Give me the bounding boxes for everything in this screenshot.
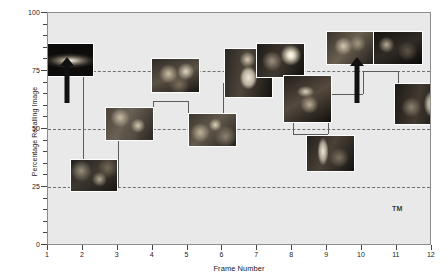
frame-2-thumbnail bbox=[70, 159, 118, 192]
frame-5-thumbnail bbox=[188, 113, 237, 147]
x-tick-5 bbox=[187, 245, 188, 250]
up-arrow-marker-right bbox=[350, 57, 364, 103]
up-arrow-marker-left bbox=[60, 57, 74, 103]
x-tick-4 bbox=[152, 245, 153, 250]
y-tick-minor-10 bbox=[43, 221, 47, 222]
x-tick-11 bbox=[396, 245, 397, 250]
y-tick-50 bbox=[41, 128, 47, 129]
x-tick-2 bbox=[82, 245, 83, 250]
x-tick-label-2: 2 bbox=[72, 251, 92, 258]
x-tick-label-1: 1 bbox=[37, 251, 57, 258]
y-tick-minor-5 bbox=[43, 232, 47, 233]
x-axis-title: Frame Number bbox=[47, 264, 431, 273]
y-tick-minor-45 bbox=[43, 140, 47, 141]
y-tick-label-0: 0 bbox=[0, 241, 40, 248]
x-tick-label-7: 7 bbox=[246, 251, 266, 258]
y-tick-minor-60 bbox=[43, 105, 47, 106]
y-tick-25 bbox=[41, 186, 47, 187]
x-tick-label-12: 12 bbox=[421, 251, 441, 258]
chart-figure: TM 100 75 50 25 0 Percentage Recalling I… bbox=[0, 0, 448, 280]
step-segment-10 bbox=[363, 71, 398, 72]
frame-3-thumbnail bbox=[105, 107, 154, 141]
frame-11-thumbnail bbox=[394, 83, 431, 125]
x-tick-1 bbox=[47, 245, 48, 250]
y-tick-75 bbox=[41, 70, 47, 71]
x-tick-label-11: 11 bbox=[386, 251, 406, 258]
arrow-shaft bbox=[65, 65, 70, 103]
plot-area: TM bbox=[47, 12, 431, 245]
x-tick-label-10: 10 bbox=[351, 251, 371, 258]
step-segment-4 bbox=[153, 101, 188, 102]
frame-7-thumbnail bbox=[256, 43, 305, 78]
x-tick-6 bbox=[221, 245, 222, 250]
y-tick-minor-15 bbox=[43, 209, 47, 210]
y-tick-100 bbox=[41, 12, 47, 13]
frame-8-thumbnail bbox=[283, 75, 332, 123]
y-tick-minor-30 bbox=[43, 174, 47, 175]
y-tick-minor-20 bbox=[43, 198, 47, 199]
y-tick-minor-70 bbox=[43, 82, 47, 83]
x-tick-3 bbox=[117, 245, 118, 250]
y-tick-minor-40 bbox=[43, 151, 47, 152]
arrow-shaft bbox=[355, 65, 360, 103]
x-tick-label-9: 9 bbox=[316, 251, 336, 258]
x-tick-8 bbox=[291, 245, 292, 250]
x-tick-12 bbox=[431, 245, 432, 250]
y-tick-minor-65 bbox=[43, 93, 47, 94]
frame-4-thumbnail bbox=[151, 58, 200, 93]
x-tick-7 bbox=[256, 245, 257, 250]
y-tick-minor-55 bbox=[43, 116, 47, 117]
x-tick-label-6: 6 bbox=[211, 251, 231, 258]
x-tick-10 bbox=[361, 245, 362, 250]
y-tick-minor-80 bbox=[43, 58, 47, 59]
x-tick-label-4: 4 bbox=[142, 251, 162, 258]
x-tick-label-3: 3 bbox=[107, 251, 127, 258]
frame-10-thumbnail bbox=[373, 31, 423, 65]
y-tick-minor-90 bbox=[43, 35, 47, 36]
y-tick-minor-95 bbox=[43, 24, 47, 25]
y-tick-label-100: 100 bbox=[0, 9, 40, 16]
y-tick-minor-35 bbox=[43, 163, 47, 164]
x-tick-9 bbox=[326, 245, 327, 250]
x-tick-label-8: 8 bbox=[281, 251, 301, 258]
x-tick-label-5: 5 bbox=[177, 251, 197, 258]
tm-annotation: TM bbox=[392, 205, 403, 212]
y-tick-minor-85 bbox=[43, 47, 47, 48]
frame-12-thumbnail bbox=[306, 135, 355, 172]
y-axis-title: Percentage Recalling Image bbox=[31, 47, 38, 217]
